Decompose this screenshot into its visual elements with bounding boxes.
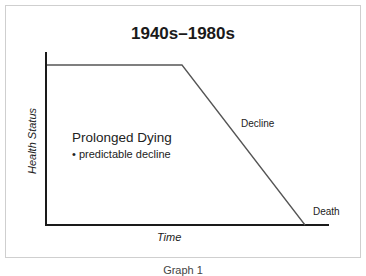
- trajectory-description: • predictable decline: [72, 148, 171, 160]
- decline-label: Decline: [241, 118, 274, 129]
- health-trajectory-line: [47, 65, 305, 225]
- x-axis-label: Time: [157, 231, 181, 243]
- y-axis-label: Health Status: [26, 108, 38, 174]
- trajectory-name: Prolonged Dying: [72, 130, 172, 145]
- death-label: Death: [313, 206, 340, 217]
- figure-caption: Graph 1: [0, 264, 366, 276]
